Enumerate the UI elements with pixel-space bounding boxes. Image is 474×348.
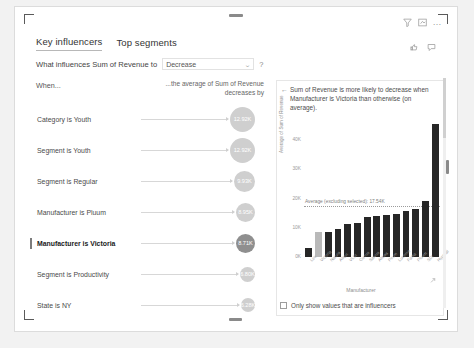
influencer-row[interactable]: Category is Youth12.92K bbox=[24, 102, 272, 136]
only-influencers-checkbox[interactable] bbox=[280, 302, 287, 309]
influencer-label: Segment is Regular bbox=[37, 178, 141, 185]
chart-bar[interactable] bbox=[354, 223, 361, 257]
analysis-type-dropdown[interactable]: Decrease ⌄ bbox=[162, 58, 254, 70]
influencer-selection-indicator bbox=[30, 114, 32, 125]
comment-icon[interactable] bbox=[427, 38, 436, 56]
average-reference-label: Average (excluding selected): 17.54K bbox=[305, 199, 385, 204]
influencer-row[interactable]: Manufacturer is Victoria8.71K bbox=[24, 226, 272, 260]
influencer-connector-line bbox=[141, 150, 228, 151]
influencer-label: Segment is Productivity bbox=[37, 271, 141, 278]
influencer-connector-line bbox=[141, 119, 228, 120]
page-edge-bottom bbox=[0, 332, 474, 348]
thumbs-up-icon[interactable] bbox=[410, 38, 419, 56]
influencer-connector-line bbox=[141, 274, 238, 275]
y-axis-tick-label: 20K bbox=[285, 196, 301, 201]
influencer-value-bubble[interactable]: 8.71K bbox=[236, 234, 255, 253]
expand-icon[interactable] bbox=[428, 271, 437, 289]
influencer-value-bubble[interactable]: 9.93K bbox=[234, 171, 255, 192]
filter-icon[interactable] bbox=[403, 18, 412, 27]
chevron-down-icon: ⌄ bbox=[244, 61, 251, 68]
influencer-value-bubble[interactable]: 8.95K bbox=[236, 203, 255, 222]
influencer-selection-indicator bbox=[30, 300, 32, 311]
only-influencers-label: Only show values that are influencers bbox=[291, 302, 396, 309]
influencers-list-pane: When... ...the average of Sum of Revenue… bbox=[24, 78, 272, 320]
influencer-connector-line bbox=[141, 181, 232, 182]
focus-mode-icon[interactable] bbox=[418, 18, 427, 27]
manufacturer-bar-chart: Average of Sum of Revenue 0K10K20K30K40K… bbox=[277, 107, 445, 289]
y-axis-title: Average of Sum of Revenue bbox=[279, 95, 284, 153]
influencer-label: Manufacturer is Victoria bbox=[37, 240, 141, 247]
resize-handle-top[interactable] bbox=[229, 14, 243, 17]
plot-area: Average (excluding selected): 17.54K bbox=[304, 111, 440, 257]
chart-bar[interactable] bbox=[432, 124, 439, 257]
visual-scrollbar-thumb[interactable] bbox=[443, 78, 446, 138]
influencer-label: Category is Youth bbox=[37, 116, 141, 123]
y-axis-tick-label: 30K bbox=[285, 166, 301, 171]
influencer-row[interactable]: Manufacturer is Pluum8.95K bbox=[24, 195, 272, 229]
back-arrow-icon[interactable]: ← bbox=[281, 86, 288, 93]
influencer-row[interactable]: State is NY6.28K bbox=[24, 288, 272, 322]
influencer-value-bubble[interactable]: 12.92K bbox=[230, 138, 255, 163]
influencer-selection-indicator bbox=[30, 145, 32, 156]
analysis-question-row: What influences Sum of Revenue to Decrea… bbox=[36, 58, 263, 70]
chart-bar[interactable] bbox=[315, 232, 322, 257]
influencer-label: Manufacturer is Pluum bbox=[37, 209, 141, 216]
influencer-selection-indicator bbox=[30, 269, 32, 280]
x-axis-title: Manufacturer bbox=[277, 287, 445, 293]
influencer-row[interactable]: Segment is Youth12.92K bbox=[24, 133, 272, 167]
influencer-connector-line bbox=[141, 212, 234, 213]
influencer-connector-line bbox=[141, 305, 239, 306]
x-axis-tick-labels: LeoVictoriaNaturaAliquiVLSICurrusSalvusA… bbox=[304, 259, 444, 285]
help-icon[interactable]: ? bbox=[259, 60, 263, 69]
page-edge-left bbox=[0, 0, 14, 348]
column-header-when: When... bbox=[36, 81, 61, 90]
influencer-label: Segment is Youth bbox=[37, 147, 141, 154]
influencer-value-bubble[interactable]: 6.28K bbox=[241, 298, 255, 312]
influencer-selection-indicator bbox=[30, 238, 32, 249]
y-axis-tick-label: 0K bbox=[285, 254, 301, 259]
report-page: … Key influencers Top segments What infl… bbox=[0, 0, 474, 348]
visual-tabs: Key influencers Top segments bbox=[36, 36, 177, 51]
influencer-label: State is NY bbox=[37, 302, 141, 309]
tab-key-influencers[interactable]: Key influencers bbox=[36, 36, 102, 51]
y-axis-tick-label: 10K bbox=[285, 225, 301, 230]
tab-top-segments[interactable]: Top segments bbox=[116, 37, 176, 51]
influencer-connector-line bbox=[141, 243, 234, 244]
visual-header-actions: … bbox=[403, 18, 443, 27]
more-options-icon[interactable]: … bbox=[433, 18, 443, 27]
selection-corner-top-left bbox=[24, 14, 34, 24]
resize-handle-right[interactable] bbox=[446, 160, 449, 174]
only-influencers-checkbox-row[interactable]: Only show values that are influencers bbox=[280, 302, 396, 309]
visual-scrollbar[interactable] bbox=[443, 78, 446, 308]
chart-bar[interactable] bbox=[422, 201, 429, 257]
visual-social-actions bbox=[410, 38, 436, 56]
influencer-value-bubble[interactable]: 6.80K bbox=[240, 267, 255, 282]
analysis-question-label: What influences Sum of Revenue to bbox=[36, 60, 157, 69]
y-axis-tick-label: 40K bbox=[285, 137, 301, 142]
average-reference-line bbox=[304, 206, 440, 207]
influencer-row[interactable]: Segment is Regular9.93K bbox=[24, 164, 272, 198]
influencer-detail-pane: ← Sum of Revenue is more likely to decre… bbox=[276, 80, 444, 316]
influencer-selection-indicator bbox=[30, 207, 32, 218]
key-influencers-visual[interactable]: … Key influencers Top segments What infl… bbox=[24, 14, 448, 320]
influencer-selection-indicator bbox=[30, 176, 32, 187]
influencer-value-bubble[interactable]: 12.92K bbox=[230, 107, 255, 132]
page-edge-right bbox=[458, 0, 474, 348]
influencer-row[interactable]: Segment is Productivity6.80K bbox=[24, 257, 272, 291]
analysis-type-value: Decrease bbox=[166, 61, 196, 68]
column-header-average: ...the average of Sum of Revenue decreas… bbox=[164, 80, 264, 98]
